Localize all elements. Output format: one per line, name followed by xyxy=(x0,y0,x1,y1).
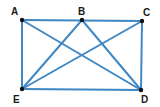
segment-be xyxy=(22,20,82,89)
point-label-e: E xyxy=(13,94,20,105)
point-label-a: A xyxy=(11,6,18,17)
segment-de xyxy=(22,89,141,90)
point-a xyxy=(20,18,24,22)
segment-cd xyxy=(141,21,142,90)
point-label-c: C xyxy=(143,7,150,18)
point-d xyxy=(139,88,143,92)
point-b xyxy=(80,18,84,22)
point-label-b: B xyxy=(78,6,85,17)
geometry-diagram: ABCDE xyxy=(0,0,160,107)
rectangle-diagonals-figure: ABCDE xyxy=(0,0,160,107)
segment-bd xyxy=(82,20,141,90)
point-label-d: D xyxy=(141,94,148,105)
point-e xyxy=(20,87,24,91)
point-c xyxy=(140,19,144,23)
